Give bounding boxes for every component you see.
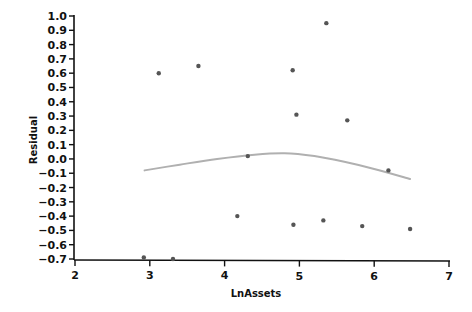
x-tick-label: 7: [445, 270, 453, 283]
y-tick-label: −0.3: [38, 196, 67, 209]
y-tick-label: 0.4: [48, 96, 68, 109]
y-tick-label: 0.8: [48, 39, 68, 52]
data-point: [360, 224, 364, 228]
y-axis-title: Residual: [28, 116, 39, 164]
y-tick-label: −0.6: [38, 239, 67, 252]
y-tick-label: 0.6: [48, 67, 68, 80]
data-point: [290, 68, 294, 72]
data-point: [386, 168, 390, 172]
data-point: [171, 257, 175, 261]
y-tick-label: 0.7: [48, 53, 68, 66]
data-point: [142, 255, 146, 259]
y-tick-label: 0.2: [48, 124, 68, 137]
data-point: [294, 112, 298, 116]
data-point: [157, 71, 161, 75]
y-tick-label: −0.2: [38, 182, 67, 195]
fit-curve: [145, 153, 411, 179]
data-point: [291, 222, 295, 226]
x-axis: 234567: [71, 260, 453, 283]
x-tick-label: 2: [71, 269, 79, 282]
x-axis-title: LnAssets: [231, 288, 282, 299]
data-points: [142, 21, 413, 261]
y-tick-label: 0.0: [48, 153, 68, 166]
x-tick-label: 5: [296, 270, 304, 283]
y-tick-label: 0.9: [48, 24, 68, 37]
data-point: [196, 64, 200, 68]
scatter-chart: 1.00.90.80.70.60.50.40.30.20.10.0−0.1−0.…: [0, 0, 472, 312]
data-point: [408, 227, 412, 231]
x-axis-line: [74, 260, 450, 261]
x-tick-label: 4: [221, 269, 229, 282]
data-point: [345, 118, 349, 122]
y-tick-label: −0.1: [38, 167, 67, 180]
data-point: [324, 21, 328, 25]
data-point: [246, 154, 250, 158]
y-tick-label: −0.5: [38, 224, 67, 237]
data-point: [235, 214, 239, 218]
y-tick-label: 0.5: [48, 81, 68, 94]
y-tick-label: −0.7: [38, 253, 67, 266]
x-tick-label: 3: [146, 269, 154, 282]
smoothed-fit-line: [145, 153, 411, 179]
data-point: [321, 218, 325, 222]
y-tick-label: −0.4: [38, 210, 67, 223]
y-tick-label: 0.1: [48, 139, 68, 152]
y-tick-label: 0.3: [48, 110, 68, 123]
y-axis: 1.00.90.80.70.60.50.40.30.20.10.0−0.1−0.…: [38, 10, 74, 266]
y-tick-label: 1.0: [48, 10, 68, 23]
x-tick-label: 6: [370, 270, 378, 283]
